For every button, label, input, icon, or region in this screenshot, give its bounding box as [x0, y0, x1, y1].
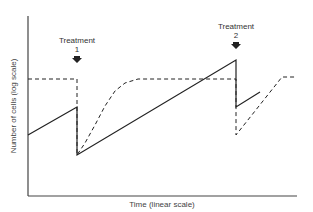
dashed-series-line [28, 77, 297, 155]
x-axis-label: Time (linear scale) [129, 200, 195, 209]
treatment-2-label-line1: Treatment [216, 22, 256, 31]
treatment-1-label: Treatment 1 [57, 36, 97, 54]
chart-canvas [0, 0, 313, 212]
treatment-1-label-line2: 1 [57, 45, 97, 54]
treatment-1-arrow-icon [72, 56, 82, 63]
y-axis-label: Number of cells (log scale) [9, 59, 18, 154]
solid-series-line [28, 60, 260, 155]
treatment-1-label-line1: Treatment [57, 36, 97, 45]
treatment-2-label-line2: 2 [216, 31, 256, 40]
treatment-2-label: Treatment 2 [216, 22, 256, 40]
treatment-2-arrow-icon [231, 42, 241, 49]
